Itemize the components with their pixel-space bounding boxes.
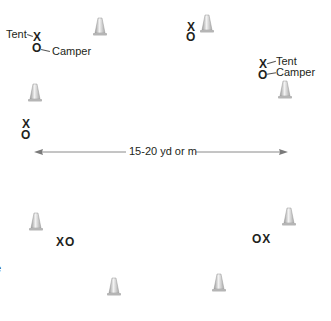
camper-marker: O <box>258 70 267 80</box>
cone-icon <box>211 273 227 292</box>
camper-leader-line <box>267 72 276 75</box>
cone-icon <box>281 207 297 226</box>
cone-icon <box>199 14 215 33</box>
camper-label: Camper <box>52 45 91 57</box>
cone-icon <box>277 80 293 99</box>
edge-text-fragment: e <box>0 262 3 276</box>
camper-marker: O <box>186 32 195 42</box>
tent-label: Tent <box>6 28 27 40</box>
cone-icon <box>92 17 108 36</box>
camper-marker: O <box>32 43 41 53</box>
tent-leader-line <box>267 61 276 64</box>
group-lower-left: XO <box>56 237 75 247</box>
group-lower-right: OX <box>252 234 271 244</box>
cone-icon <box>28 212 44 231</box>
cone-icon <box>106 277 122 296</box>
camper-leader-line <box>41 49 50 52</box>
camper-marker: O <box>21 130 30 140</box>
distance-label: 15-20 yd or m <box>129 145 197 157</box>
camper-label: Camper <box>276 66 315 78</box>
cone-icon <box>27 83 43 102</box>
